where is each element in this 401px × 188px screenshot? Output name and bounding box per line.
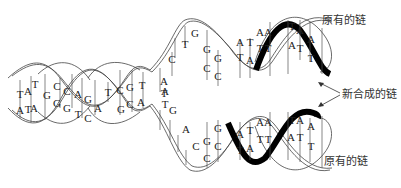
svg-text:T: T bbox=[139, 79, 146, 91]
svg-text:T: T bbox=[289, 20, 296, 32]
daughter-bottom-bases: G C G C A T T A A T A T T A A T A T bbox=[203, 114, 315, 164]
svg-text:A: A bbox=[296, 24, 304, 36]
svg-text:T: T bbox=[297, 42, 304, 54]
svg-text:A: A bbox=[296, 114, 304, 126]
svg-text:A: A bbox=[264, 116, 272, 128]
svg-text:T: T bbox=[308, 52, 315, 64]
svg-text:C: C bbox=[203, 152, 210, 164]
daughter-top-bases: G C G C A T T A A T A T T A A T A T bbox=[203, 20, 315, 82]
svg-text:T: T bbox=[162, 98, 169, 110]
svg-text:A: A bbox=[256, 116, 264, 128]
svg-text:G: G bbox=[214, 122, 222, 134]
svg-text:G: G bbox=[203, 43, 211, 55]
svg-text:A: A bbox=[236, 128, 244, 140]
svg-text:G: G bbox=[43, 89, 51, 101]
svg-text:T: T bbox=[265, 133, 272, 145]
svg-text:T: T bbox=[237, 51, 244, 63]
new-strand-arrows bbox=[318, 82, 340, 107]
svg-text:G: G bbox=[203, 135, 211, 147]
svg-text:C: C bbox=[126, 98, 133, 110]
svg-text:C: C bbox=[168, 53, 175, 65]
svg-text:T: T bbox=[17, 88, 24, 100]
svg-text:T: T bbox=[257, 133, 264, 145]
svg-text:C: C bbox=[214, 140, 221, 152]
svg-text:A: A bbox=[16, 104, 24, 116]
dna-replication-diagram: T A A T T A G C G C G A T G C T A C G G … bbox=[0, 0, 401, 188]
svg-text:A: A bbox=[287, 131, 295, 143]
svg-text:C: C bbox=[203, 62, 210, 74]
svg-text:C: C bbox=[63, 85, 70, 97]
svg-text:A: A bbox=[161, 85, 169, 97]
svg-text:C: C bbox=[214, 70, 221, 82]
svg-text:A: A bbox=[288, 39, 296, 51]
svg-text:A: A bbox=[137, 96, 145, 108]
svg-text:A: A bbox=[74, 88, 82, 100]
svg-text:T: T bbox=[247, 36, 254, 48]
svg-text:A: A bbox=[256, 26, 264, 38]
daughter-helix-bottom bbox=[228, 112, 332, 171]
svg-text:A: A bbox=[182, 123, 190, 135]
svg-text:G: G bbox=[84, 93, 92, 105]
svg-text:A: A bbox=[307, 33, 315, 45]
svg-text:T: T bbox=[247, 124, 254, 136]
svg-text:G: G bbox=[191, 27, 199, 39]
svg-text:T: T bbox=[265, 42, 272, 54]
svg-text:G: G bbox=[63, 102, 71, 114]
svg-text:C: C bbox=[116, 84, 123, 96]
svg-text:G: G bbox=[214, 52, 222, 64]
label-new-strand: 新合成的链 bbox=[342, 87, 397, 101]
svg-text:T: T bbox=[257, 42, 264, 54]
label-original-strand-bottom: 原有的链 bbox=[324, 154, 368, 168]
svg-text:C: C bbox=[192, 140, 199, 152]
svg-text:G: G bbox=[126, 81, 134, 93]
svg-text:T: T bbox=[237, 144, 244, 156]
svg-text:T: T bbox=[182, 38, 189, 50]
svg-text:A: A bbox=[264, 26, 272, 38]
svg-text:G: G bbox=[117, 103, 125, 115]
svg-text:A: A bbox=[236, 36, 244, 48]
svg-text:T: T bbox=[75, 108, 82, 120]
svg-text:A: A bbox=[94, 102, 102, 114]
svg-text:G: G bbox=[53, 97, 61, 109]
svg-text:A: A bbox=[30, 102, 38, 114]
svg-text:C: C bbox=[53, 80, 60, 92]
svg-text:C: C bbox=[84, 112, 91, 124]
svg-text:T: T bbox=[105, 86, 112, 98]
label-original-strand-top: 原有的链 bbox=[322, 13, 366, 27]
svg-text:T: T bbox=[297, 131, 304, 143]
svg-text:A: A bbox=[307, 120, 315, 132]
svg-text:T: T bbox=[308, 140, 315, 152]
fork-bases: A T C T G T A G A C bbox=[160, 27, 200, 152]
svg-text:A: A bbox=[246, 54, 254, 66]
svg-text:G: G bbox=[169, 104, 177, 116]
svg-text:T: T bbox=[32, 78, 39, 90]
svg-text:A: A bbox=[246, 142, 254, 154]
svg-text:T: T bbox=[289, 114, 296, 126]
